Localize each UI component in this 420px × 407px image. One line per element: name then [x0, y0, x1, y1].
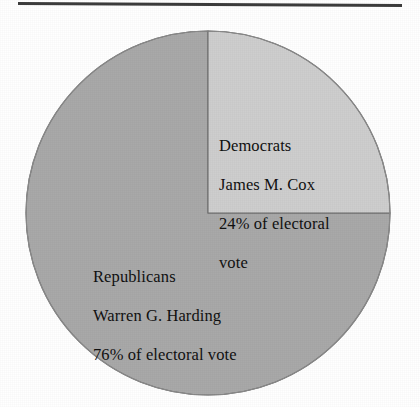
- page-canvas: Democrats James M. Cox 24% of electoral …: [0, 0, 420, 407]
- republicans-party-label: Republicans: [93, 267, 328, 286]
- republicans-candidate-label: Warren G. Harding: [93, 306, 328, 325]
- democrats-value-label-line1: 24% of electoral: [219, 214, 391, 233]
- pie-label-republicans: Republicans Warren G. Harding 76% of ele…: [93, 248, 328, 384]
- democrats-party-label: Democrats: [219, 136, 391, 155]
- democrats-candidate-label: James M. Cox: [219, 175, 391, 194]
- republicans-value-label: 76% of electoral vote: [93, 345, 328, 364]
- pie-chart-figure: Democrats James M. Cox 24% of electoral …: [0, 0, 420, 407]
